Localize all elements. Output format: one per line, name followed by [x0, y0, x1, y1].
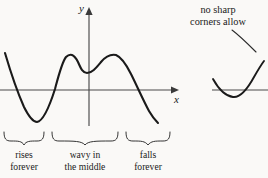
brace-shape-2	[52, 132, 118, 145]
brace-label-3-line-2: forever	[134, 161, 162, 172]
inset-smooth-curve	[213, 61, 264, 97]
callout-group: no sharp corners allow	[190, 4, 256, 52]
brace-label-3-line-1: falls	[140, 149, 157, 160]
brace-label-2-line-1: wavy in	[70, 149, 101, 160]
inset-plot-group	[212, 61, 268, 97]
y-axis-arrowhead	[85, 7, 92, 15]
brace-shape-3	[126, 132, 170, 145]
brace-label-1-line-1: rises	[15, 149, 33, 160]
brace-shape-1	[4, 132, 44, 145]
callout-line-1: no sharp	[200, 4, 235, 15]
brace-wavy-middle: wavy in the middle	[52, 132, 118, 172]
brace-label-1-line-2: forever	[10, 161, 38, 172]
brace-falls-forever: falls forever	[126, 132, 170, 172]
figure-page: y x no sharp corners allow rises forever	[0, 0, 268, 178]
y-axis-label: y	[78, 2, 84, 14]
brace-rises-forever: rises forever	[4, 132, 44, 172]
callout-leader-line	[232, 30, 256, 52]
brace-group: rises forever wavy in the middle falls f…	[4, 132, 170, 172]
y-axis	[85, 7, 92, 126]
brace-label-2-line-2: the middle	[65, 161, 106, 172]
polynomial-curve	[5, 53, 158, 123]
x-axis-label: x	[173, 93, 179, 105]
main-plot-group: y x	[0, 2, 179, 126]
math-figure: y x no sharp corners allow rises forever	[0, 0, 268, 178]
callout-line-2: corners allow	[190, 16, 246, 27]
